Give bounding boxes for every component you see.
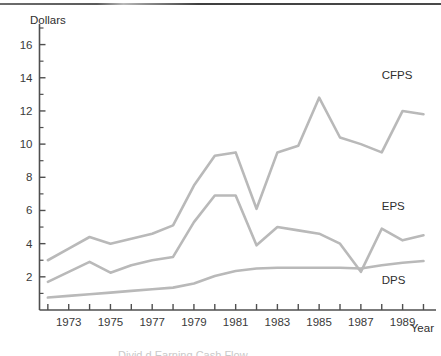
y-tick-label: 8 (26, 171, 32, 183)
chart-canvas: 246810121416 197319751977197919811983198… (0, 0, 441, 356)
x-tick-label: 1985 (306, 316, 332, 328)
x-tick-label: 1983 (265, 316, 291, 328)
y-tick-label: 14 (20, 72, 33, 84)
series-label-cfps: CFPS (382, 69, 413, 81)
y-tick-label: 6 (26, 204, 32, 216)
y-axis: 246810121416 (20, 24, 46, 310)
x-tick-label: 1981 (223, 316, 249, 328)
series-label-dps: DPS (382, 274, 406, 286)
series-line-eps (48, 196, 424, 282)
y-tick-label: 10 (20, 138, 33, 150)
series-line-dps (48, 261, 424, 298)
x-axis: 197319751977197919811983198519871989 (40, 304, 437, 328)
y-tick-label: 16 (20, 39, 33, 51)
series-line-cfps (48, 98, 424, 261)
footer-ghost-text: Divid d Earning Cash Flow (118, 349, 378, 356)
x-axis-title: Year (411, 322, 434, 334)
series-label-eps: EPS (382, 200, 405, 212)
y-tick-label: 2 (26, 271, 32, 283)
x-tick-label: 1979 (181, 316, 207, 328)
series-labels: CFPSEPSDPS (382, 69, 413, 286)
x-tick-label: 1987 (348, 316, 374, 328)
y-tick-label: 4 (26, 238, 33, 250)
x-tick-label: 1973 (56, 316, 82, 328)
y-tick-label: 12 (20, 105, 33, 117)
x-tick-label: 1975 (98, 316, 124, 328)
x-tick-label: 1977 (139, 316, 165, 328)
y-axis-title: Dollars (30, 14, 66, 26)
series-lines (48, 98, 424, 298)
line-chart: 246810121416 197319751977197919811983198… (0, 0, 441, 356)
